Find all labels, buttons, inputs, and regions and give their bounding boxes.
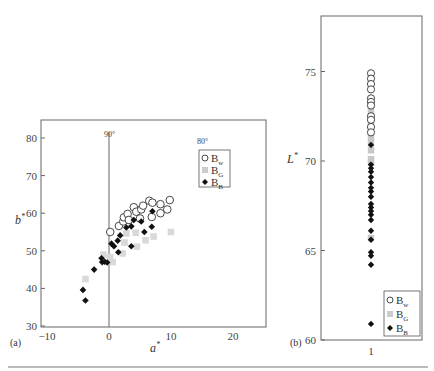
x-axis-label-a: a*: [150, 340, 160, 355]
marker-open-circle: [202, 155, 208, 161]
svg-text:60: 60: [26, 207, 38, 219]
legend-b: BwBGBB: [384, 291, 420, 337]
marker-open-circle: [166, 196, 174, 204]
scatter-points-a: [80, 196, 175, 303]
chart-panel-b: 60657075 1 L* (b) BwBGBB: [286, 16, 422, 357]
marker-filled-diamond: [368, 228, 374, 234]
marker-square: [142, 237, 149, 244]
marker-open-circle: [367, 86, 374, 93]
annotation-90: 90°: [104, 130, 115, 139]
y-axis-label-b: L*: [286, 151, 298, 166]
marker-filled-diamond: [141, 229, 148, 236]
marker-open-circle: [367, 129, 374, 136]
marker-open-circle: [149, 199, 157, 207]
marker-open-circle: [157, 209, 165, 217]
panel-label-a: (a): [10, 337, 21, 349]
marker-open-circle: [163, 206, 171, 214]
marker-square: [121, 239, 128, 246]
marker-square: [123, 230, 130, 237]
marker-square: [387, 311, 393, 317]
scatter-points-b: [367, 70, 374, 327]
marker-filled-diamond: [148, 223, 155, 230]
svg-text:50: 50: [26, 245, 38, 257]
marker-square: [202, 167, 208, 173]
svg-text:40: 40: [26, 282, 38, 294]
svg-text:30: 30: [26, 320, 38, 332]
marker-square: [109, 259, 116, 266]
marker-filled-diamond: [80, 287, 87, 294]
marker-filled-diamond: [368, 194, 374, 200]
marker-filled-diamond: [368, 253, 374, 259]
marker-square: [132, 229, 139, 236]
svg-text:10: 10: [166, 330, 178, 342]
x-axis-ticks-b: 1: [368, 345, 374, 357]
marker-open-circle: [387, 297, 393, 303]
svg-text:75: 75: [305, 66, 317, 78]
marker-square: [168, 229, 175, 236]
panel-label-b: (b): [290, 337, 302, 349]
y-axis-ticks-b: 60657075: [305, 66, 325, 347]
svg-text:70: 70: [26, 170, 38, 182]
plot-frame-a: [41, 120, 266, 327]
y-axis-label-a: b*: [15, 212, 25, 227]
marker-filled-diamond: [368, 321, 374, 327]
marker-open-circle: [367, 102, 374, 109]
y-axis-ticks-a: 304050607080: [26, 132, 45, 332]
marker-filled-diamond: [368, 217, 374, 223]
x-axis-ticks-a: −1001020: [38, 330, 239, 342]
marker-open-circle: [157, 200, 165, 208]
svg-text:0: 0: [106, 330, 112, 342]
svg-text:20: 20: [228, 330, 240, 342]
marker-square: [134, 243, 141, 250]
marker-open-circle: [148, 213, 156, 221]
svg-text:1: 1: [368, 345, 374, 357]
svg-text:70: 70: [305, 155, 317, 167]
svg-text:−10: −10: [38, 330, 56, 342]
marker-open-circle: [367, 116, 374, 123]
marker-filled-diamond: [368, 262, 374, 268]
marker-filled-diamond: [82, 297, 89, 304]
marker-square: [82, 276, 89, 283]
svg-text:60: 60: [305, 334, 317, 346]
marker-open-circle: [106, 228, 114, 236]
marker-square: [150, 233, 157, 240]
marker-filled-diamond: [91, 266, 98, 273]
svg-text:80: 80: [26, 132, 38, 144]
annotation-80: 80°: [197, 137, 208, 146]
svg-text:65: 65: [305, 245, 317, 257]
legend-a: BwBGBB: [199, 150, 230, 191]
chart-panel-a: 90° 80° 304050607080 −1001020 b* a* (a) …: [10, 120, 266, 355]
figure: 90° 80° 304050607080 −1001020 b* a* (a) …: [0, 0, 434, 371]
